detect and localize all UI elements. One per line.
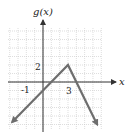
tick-label-x3: 3 [66, 86, 72, 96]
x-axis-label: x [119, 76, 125, 87]
y-axis-label: g(x) [33, 6, 53, 17]
tick-label-y2: 2 [35, 62, 41, 72]
tick-label-ym1: -1 [21, 85, 30, 95]
graph-of-g: g(x) x 2 -1 3 [0, 0, 128, 140]
